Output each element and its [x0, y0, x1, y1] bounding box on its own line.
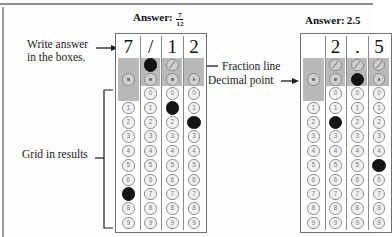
grid2-bubble-4-0[interactable]: 0 [373, 87, 386, 100]
grid2-column-2[interactable]: 2 0 1 2 3 4 5 6 7 8 9 [325, 36, 346, 230]
grid1-cell-4-9[interactable]: 9 [184, 216, 204, 230]
grid2-bubble-2-5[interactable]: 5 [329, 159, 342, 172]
grid1-cell-2-7[interactable]: 7 [141, 187, 161, 201]
grid2-column-3[interactable]: . 0 1 2 3 4 5 6 7 8 9 [346, 36, 367, 230]
grid2-bubble-4-5[interactable]: 5 [372, 159, 386, 173]
grid2-cell-2-7[interactable]: 7 [326, 187, 346, 201]
grid1-bubble-2-2[interactable]: 2 [144, 116, 157, 129]
grid1-cell-1-6[interactable]: 6 [118, 173, 139, 187]
grid2-bubble-1-7[interactable]: 7 [307, 188, 320, 201]
grid1-column-4[interactable]: 2 0 1 2 3 4 5 6 7 8 9 [183, 36, 204, 230]
grid1-bubble-3-1[interactable]: 1 [166, 101, 180, 115]
grid2-bubble-3-2[interactable]: 2 [351, 116, 364, 129]
grid2-cell-1-5[interactable]: 5 [303, 158, 324, 172]
grid2-bubble-4-1[interactable]: 1 [373, 102, 386, 115]
grid2-writebox-1[interactable] [303, 36, 324, 58]
grid2-writebox-2[interactable]: 2 [326, 36, 346, 58]
grid1-cell-2-3[interactable]: 3 [141, 130, 161, 144]
grid1-bubble-2-8[interactable]: 8 [144, 202, 157, 215]
grid2-bubble-3-7[interactable]: 7 [351, 188, 364, 201]
grid1-cell-2-4[interactable]: 4 [141, 144, 161, 158]
grid1-cell-1-5[interactable]: 5 [118, 158, 139, 172]
grid1-slashcell-1[interactable] [118, 58, 139, 72]
grid1-cell-1-7[interactable]: 7 [118, 187, 139, 201]
grid2-bubble-2-6[interactable]: 6 [329, 174, 342, 187]
grid2-bubble-1-6[interactable]: 6 [307, 174, 320, 187]
grid2-cell-3-5[interactable]: 5 [347, 158, 367, 172]
grid2-cell-4-4[interactable]: 4 [369, 144, 389, 158]
grid1-writebox-1[interactable]: 7 [118, 36, 139, 58]
grid2-bubble-4-9[interactable]: 9 [373, 217, 386, 230]
grid1-bubble-4-6[interactable]: 6 [188, 174, 201, 187]
grid2-bubble-2-3[interactable]: 3 [329, 130, 342, 143]
grid1-cell-2-2[interactable]: 2 [141, 115, 161, 129]
grid1-bubble-3-5[interactable]: 5 [166, 159, 179, 172]
grid2-bubble-1-9[interactable]: 9 [307, 217, 320, 230]
grid2-bubble-1-1[interactable]: 1 [307, 102, 320, 115]
grid1-bubble-1-2[interactable]: 2 [122, 116, 135, 129]
grid2-cell-2-1[interactable]: 1 [326, 101, 346, 115]
grid2-bubble-4-7[interactable]: 7 [373, 188, 386, 201]
grid1-bubble-2-7[interactable]: 7 [144, 188, 157, 201]
grid2-bubble-3-9[interactable]: 9 [351, 217, 364, 230]
grid1-cell-2-5[interactable]: 5 [141, 158, 161, 172]
grid1-cell-2-0[interactable]: 0 [141, 86, 161, 100]
grid1-decimalcell-1[interactable] [118, 72, 139, 86]
answer-grid-decimal[interactable]: 1 2 3 4 5 6 7 8 9 2 0 1 2 3 4 5 6 7 [300, 33, 392, 233]
grid1-bubble-4-9[interactable]: 9 [188, 217, 201, 230]
grid2-cell-2-5[interactable]: 5 [326, 158, 346, 172]
grid1-bubble-3-2[interactable]: 2 [166, 116, 179, 129]
grid1-cell-1-1[interactable]: 1 [118, 101, 139, 115]
grid2-decimalcell-4[interactable] [369, 72, 389, 86]
grid1-bubble-1-6[interactable]: 6 [122, 174, 135, 187]
grid1-decimal-bubble-3[interactable] [166, 73, 179, 86]
grid1-bubble-4-5[interactable]: 5 [188, 159, 201, 172]
grid1-cell-4-0[interactable]: 0 [184, 86, 204, 100]
grid1-cell-4-6[interactable]: 6 [184, 173, 204, 187]
grid2-slashcell-2[interactable] [326, 58, 346, 72]
grid1-writebox-2[interactable]: / [141, 36, 161, 58]
grid2-bubble-4-8[interactable]: 8 [373, 202, 386, 215]
grid1-decimalcell-3[interactable] [162, 72, 182, 86]
grid2-bubble-3-3[interactable]: 3 [351, 130, 364, 143]
grid1-bubble-2-0[interactable]: 0 [144, 87, 157, 100]
grid2-decimalcell-2[interactable] [326, 72, 346, 86]
grid1-bubble-1-4[interactable]: 4 [122, 145, 135, 158]
grid2-decimal-bubble-4[interactable] [373, 73, 386, 86]
grid1-cell-4-4[interactable]: 4 [184, 144, 204, 158]
grid1-bubble-4-2[interactable]: 2 [187, 116, 201, 130]
grid2-cell-3-3[interactable]: 3 [347, 130, 367, 144]
grid2-cell-1-3[interactable]: 3 [303, 130, 324, 144]
grid1-decimal-bubble-2[interactable] [144, 73, 157, 86]
grid1-cell-2-1[interactable]: 1 [141, 101, 161, 115]
grid1-decimalcell-4[interactable] [184, 72, 204, 86]
grid1-bubble-1-7[interactable]: 7 [122, 187, 136, 201]
grid2-slash-bubble-2[interactable] [329, 59, 342, 72]
grid1-cell-4-8[interactable]: 8 [184, 201, 204, 215]
grid2-bubble-2-2[interactable]: 2 [329, 116, 343, 130]
grid2-bubble-3-4[interactable]: 4 [351, 145, 364, 158]
grid2-cell-4-3[interactable]: 3 [369, 130, 389, 144]
grid2-decimalcell-1[interactable] [303, 72, 324, 86]
grid1-cell-3-9[interactable]: 9 [162, 216, 182, 230]
grid2-bubble-1-8[interactable]: 8 [307, 202, 320, 215]
grid2-cell-3-9[interactable]: 9 [347, 216, 367, 230]
grid2-bubble-3-8[interactable]: 8 [351, 202, 364, 215]
grid1-bubble-4-0[interactable]: 0 [188, 87, 201, 100]
grid1-bubble-3-8[interactable]: 8 [166, 202, 179, 215]
grid1-cell-3-0[interactable]: 0 [162, 86, 182, 100]
grid1-cell-1-8[interactable]: 8 [118, 201, 139, 215]
grid1-slash-bubble-2[interactable] [144, 58, 158, 72]
grid2-column-4[interactable]: 5 0 1 2 3 4 5 6 7 8 9 [368, 36, 389, 230]
grid1-bubble-4-8[interactable]: 8 [188, 202, 201, 215]
grid2-bubble-4-6[interactable]: 6 [373, 174, 386, 187]
grid1-cell-2-8[interactable]: 8 [141, 201, 161, 215]
grid2-decimal-bubble-3[interactable] [351, 73, 365, 87]
grid1-bubble-3-3[interactable]: 3 [166, 130, 179, 143]
grid1-decimal-bubble-4[interactable] [188, 73, 201, 86]
grid2-bubble-2-8[interactable]: 8 [329, 202, 342, 215]
grid1-cell-4-2[interactable]: 2 [184, 115, 204, 129]
grid1-bubble-1-1[interactable]: 1 [122, 102, 135, 115]
grid2-bubble-2-9[interactable]: 9 [329, 217, 342, 230]
grid1-cell-3-1[interactable]: 1 [162, 101, 182, 115]
